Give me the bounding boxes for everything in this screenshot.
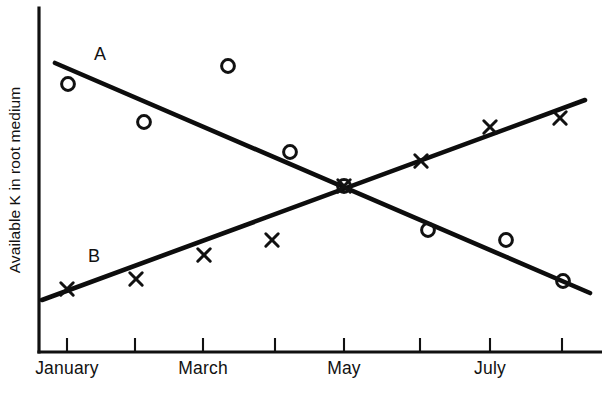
data-point-cross (198, 249, 210, 261)
data-point-circle (500, 234, 513, 247)
data-point-cross (130, 273, 142, 285)
data-point-circle (284, 146, 297, 159)
y-axis-title: Available K in root medium (6, 87, 23, 274)
scatter-plot: A B JanuaryMarchMayJuly Available K in r… (0, 0, 602, 414)
data-point-circle (62, 78, 75, 91)
data-markers (61, 60, 570, 296)
x-tick-labels: JanuaryMarchMayJuly (35, 358, 506, 378)
data-point-cross (484, 121, 496, 133)
trend-line-a (55, 63, 590, 293)
x-tick-label: July (474, 358, 506, 378)
data-point-circle (222, 60, 235, 73)
trend-lines (42, 63, 590, 300)
data-point-cross (266, 234, 278, 246)
chart-figure: A B JanuaryMarchMayJuly Available K in r… (0, 0, 602, 414)
series-label-b: B (88, 246, 100, 266)
data-point-cross (554, 112, 566, 124)
series-label-a: A (94, 44, 106, 64)
x-axis-ticks (67, 338, 562, 352)
axis-group (39, 8, 602, 352)
data-point-circle (138, 116, 151, 129)
x-tick-label: March (178, 358, 228, 378)
trend-line-b (42, 100, 585, 300)
x-tick-label: January (35, 358, 99, 378)
x-tick-label: May (327, 358, 361, 378)
